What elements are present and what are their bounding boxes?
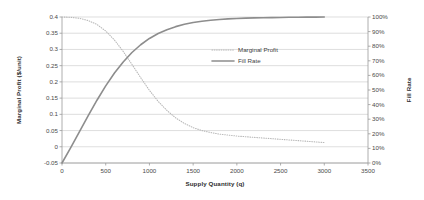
y-axis-left-title: Marginal Profit ($/unit) bbox=[14, 17, 24, 163]
y-axis-left-tick-label: 0 bbox=[24, 143, 58, 151]
y-axis-right-tick-label: 20% bbox=[372, 130, 406, 138]
chart-container: Marginal Profit ($/unit) Fill Rate Suppl… bbox=[0, 0, 424, 200]
y-axis-right-tick-label: 50% bbox=[372, 86, 406, 94]
x-axis-tick-label: 2500 bbox=[261, 167, 301, 175]
y-axis-right-tick-label: 80% bbox=[372, 42, 406, 50]
x-axis-tick-label: 3000 bbox=[304, 167, 344, 175]
x-axis-tick-label: 3500 bbox=[348, 167, 388, 175]
y-axis-right-tick-label: 90% bbox=[372, 28, 406, 36]
y-axis-left-tick-label: -0.05 bbox=[24, 159, 58, 167]
x-axis-tick-label: 0 bbox=[42, 167, 82, 175]
x-axis-tick-label: 2000 bbox=[217, 167, 257, 175]
y-axis-left-tick-label: 0.35 bbox=[24, 29, 58, 37]
y-axis-left-tick-label: 0.15 bbox=[24, 94, 58, 102]
y-axis-left-tick-label: 0.4 bbox=[24, 13, 58, 21]
y-axis-right-tick-label: 70% bbox=[372, 57, 406, 65]
x-axis-tick-label: 1000 bbox=[129, 167, 169, 175]
y-axis-left-tick-label: 0.1 bbox=[24, 110, 58, 118]
y-axis-left-tick-label: 0.25 bbox=[24, 62, 58, 70]
x-axis-tick-label: 1500 bbox=[173, 167, 213, 175]
x-axis-tick-label: 500 bbox=[86, 167, 126, 175]
plot-background bbox=[62, 17, 368, 163]
legend-label-fill-rate: Fill Rate bbox=[238, 57, 261, 64]
y-axis-left-tick-label: 0.3 bbox=[24, 45, 58, 53]
y-axis-right-tick-label: 10% bbox=[372, 144, 406, 152]
y-axis-left-tick-label: 0.05 bbox=[24, 127, 58, 135]
y-axis-left-tick-label: 0.2 bbox=[24, 78, 58, 86]
x-axis-title: Supply Quantity (q) bbox=[62, 180, 368, 187]
y-axis-right-tick-label: 30% bbox=[372, 115, 406, 123]
y-axis-right-tick-label: 60% bbox=[372, 71, 406, 79]
legend-label-marginal-profit: Marginal Profit bbox=[238, 46, 278, 53]
y-axis-right-tick-label: 0% bbox=[372, 159, 406, 167]
y-axis-right-tick-label: 100% bbox=[372, 13, 406, 21]
y-axis-right-tick-label: 40% bbox=[372, 101, 406, 109]
